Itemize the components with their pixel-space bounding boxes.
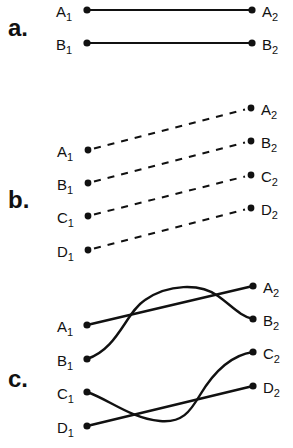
connector-b1-b2-curve xyxy=(87,287,253,359)
correspondence-diagram: a. A1 B1 A2 B2 b. A1 B1 C1 D1 A2 B2 xyxy=(0,0,293,448)
panel-a: a. A1 B1 A2 B2 xyxy=(8,3,278,56)
connector-c1-c2-curve xyxy=(87,352,253,421)
label-b2: B2 xyxy=(261,134,277,154)
point-d2 xyxy=(248,205,255,212)
connector-dashed-d xyxy=(94,210,245,249)
point-d1 xyxy=(83,422,90,429)
point-a1 xyxy=(83,321,90,328)
point-d1 xyxy=(85,247,92,254)
label-a1: A1 xyxy=(57,143,73,163)
point-b1 xyxy=(83,355,90,362)
label-a2: A2 xyxy=(261,101,277,121)
point-b2 xyxy=(249,315,256,322)
label-b1: B1 xyxy=(57,352,73,372)
panel-b: b. A1 B1 C1 D1 A2 B2 C2 D2 xyxy=(8,101,278,263)
point-b1 xyxy=(83,39,90,46)
label-d1: D1 xyxy=(57,419,74,439)
label-b1: B1 xyxy=(57,176,73,196)
point-c2 xyxy=(248,172,255,179)
point-d2 xyxy=(249,382,256,389)
point-a2 xyxy=(248,6,255,13)
label-b1: B1 xyxy=(56,36,72,56)
point-b2 xyxy=(248,39,255,46)
label-a2: A2 xyxy=(263,279,279,299)
connector-dashed-c xyxy=(94,177,245,215)
label-b2: B2 xyxy=(263,312,279,332)
label-a1: A1 xyxy=(57,318,73,338)
point-c1 xyxy=(85,213,92,220)
label-c1: C1 xyxy=(57,209,74,229)
point-a1 xyxy=(83,6,90,13)
label-d2: D2 xyxy=(261,201,278,221)
label-a1: A1 xyxy=(56,3,72,23)
label-d2: D2 xyxy=(263,379,280,399)
connector-dashed-b xyxy=(94,143,245,182)
panel-c-label: c. xyxy=(8,365,28,392)
point-a2 xyxy=(249,282,256,289)
label-c1: C1 xyxy=(57,385,74,405)
panel-c: c. A1 B1 C1 D1 A2 B2 C2 D2 xyxy=(8,279,280,439)
connector-dashed-a xyxy=(94,110,245,149)
label-d1: D1 xyxy=(57,243,74,263)
label-c2: C2 xyxy=(263,345,280,365)
panel-a-label: a. xyxy=(8,14,28,41)
point-b2 xyxy=(248,138,255,145)
point-a2 xyxy=(248,105,255,112)
point-c2 xyxy=(249,348,256,355)
connector-a1-a2 xyxy=(87,286,253,325)
label-c2: C2 xyxy=(261,168,278,188)
point-a1 xyxy=(85,147,92,154)
label-a2: A2 xyxy=(262,3,278,23)
point-b1 xyxy=(85,180,92,187)
point-c1 xyxy=(83,388,90,395)
label-b2: B2 xyxy=(262,36,278,56)
panel-b-label: b. xyxy=(8,186,29,213)
